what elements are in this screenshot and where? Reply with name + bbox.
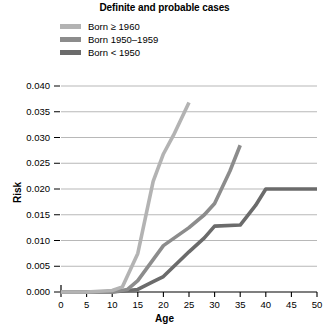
series-line bbox=[61, 145, 240, 292]
x-tick-label: 40 bbox=[256, 299, 276, 310]
x-tick-label: 25 bbox=[179, 299, 199, 310]
y-tick-label: 0.035 bbox=[14, 106, 50, 117]
x-tick-label: 30 bbox=[205, 299, 225, 310]
y-tick-label: 0.040 bbox=[14, 80, 50, 91]
x-tick-label: 50 bbox=[307, 299, 327, 310]
x-tick-label: 0 bbox=[51, 299, 71, 310]
y-tick-label: 0.015 bbox=[14, 209, 50, 220]
x-tick-label: 20 bbox=[153, 299, 173, 310]
y-tick-label: 0.030 bbox=[14, 132, 50, 143]
x-tick-label: 10 bbox=[102, 299, 122, 310]
y-tick-label: 0.010 bbox=[14, 235, 50, 246]
chart-container: Definite and probable cases Born ≥ 1960 … bbox=[0, 0, 329, 334]
x-tick-label: 5 bbox=[77, 299, 97, 310]
x-tick-label: 45 bbox=[281, 299, 301, 310]
plot-area: 0.0000.0050.0100.0150.0200.0250.0300.035… bbox=[0, 0, 329, 334]
y-tick-label: 0.025 bbox=[14, 157, 50, 168]
y-tick-label: 0.005 bbox=[14, 260, 50, 271]
x-tick-label: 15 bbox=[128, 299, 148, 310]
series-line bbox=[61, 102, 189, 292]
x-axis-title: Age bbox=[0, 313, 329, 324]
y-tick-label: 0.000 bbox=[14, 286, 50, 297]
y-axis-title: Risk bbox=[12, 182, 23, 203]
x-tick-label: 35 bbox=[230, 299, 250, 310]
